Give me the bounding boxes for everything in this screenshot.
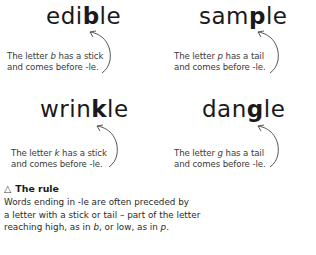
word-suffix: le	[266, 3, 288, 29]
caption-text: has a tail	[223, 51, 264, 61]
warning-triangle-icon: △	[4, 183, 11, 195]
example-caption: The letter b has a stick and comes befor…	[7, 51, 103, 73]
caption-text: has a tail	[223, 148, 264, 158]
example-word-sample: sample	[199, 5, 288, 28]
caption-text: The letter	[174, 51, 218, 61]
example-word-dangle: dangle	[202, 98, 285, 121]
key-letter: b	[83, 3, 100, 29]
word-prefix: dan	[202, 96, 247, 122]
rule-text-part: , or low, as in	[99, 222, 161, 232]
rule-text-part: .	[166, 222, 169, 232]
word-suffix: le	[100, 3, 122, 29]
caption-text: has a stick	[59, 148, 106, 158]
rule-heading: △ The rule	[4, 183, 314, 195]
caption-text: and comes before -le.	[11, 159, 107, 170]
caption-text: has a stick	[56, 51, 103, 61]
key-letter: p	[249, 3, 266, 29]
word-prefix: wrin	[40, 96, 91, 122]
word-suffix: le	[264, 96, 286, 122]
key-letter: k	[91, 96, 107, 122]
caption-text: The letter	[7, 51, 51, 61]
example-caption: The letter p has a tail and comes before…	[174, 51, 266, 73]
caption-text: and comes before -le.	[7, 62, 103, 73]
rule-line: reaching high, as in b, or low, as in p.	[4, 221, 314, 234]
rule-text-part: reaching high, as in	[4, 222, 93, 232]
rule-line: a letter with a stick or tail – part of …	[4, 209, 314, 222]
rule-text: Words ending in -le are often preceded b…	[4, 196, 314, 234]
caption-text: The letter	[174, 148, 218, 158]
word-prefix: sam	[199, 3, 249, 29]
rule-line: Words ending in -le are often preceded b…	[4, 196, 314, 209]
caption-text: and comes before -le.	[174, 62, 266, 73]
caption-text: The letter	[11, 148, 55, 158]
example-caption: The letter k has a stick and comes befor…	[11, 148, 107, 170]
example-word-wrinkle: wrinkle	[40, 98, 129, 121]
example-word-edible: edible	[46, 5, 121, 28]
caption-text: and comes before -le.	[174, 159, 266, 170]
word-prefix: edi	[46, 3, 83, 29]
key-letter: g	[247, 96, 264, 122]
word-suffix: le	[107, 96, 129, 122]
rule-box: △ The rule Words ending in -le are often…	[4, 183, 314, 234]
example-caption: The letter g has a tail and comes before…	[174, 148, 266, 170]
rule-title: The rule	[15, 183, 59, 195]
